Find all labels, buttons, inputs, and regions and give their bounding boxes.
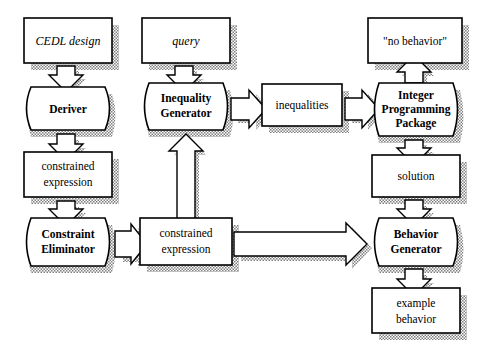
node-example-behavior-line2: behavior [396,313,436,325]
node-solution-label: solution [397,170,434,182]
node-behavior-generator[interactable]: Behavior Generator [375,218,458,266]
node-constraint-eliminator-line2: Eliminator [41,243,95,255]
node-cedl-design-label: CEDL design [36,34,101,48]
node-ip-package[interactable]: Integer Programming Package [375,83,458,136]
node-constrained-expression-2-line1: constrained [159,227,212,239]
node-example-behavior-line1: example [397,297,436,310]
node-inequality-generator-label-line2: Generator [160,107,211,119]
node-constrained-expression-1-line2: expression [43,176,92,189]
node-constrained-expression-2-line2: expression [161,243,210,256]
node-constrained-expression-1-line1: constrained [41,160,94,172]
flow-diagram-canvas: CEDL design query "no behavior" Deriver … [0,0,491,355]
node-inequalities[interactable]: inequalities [262,84,342,126]
node-ip-package-label-line3: Package [396,117,437,130]
node-no-behavior-label: "no behavior" [383,35,447,47]
node-constraint-eliminator[interactable]: Constraint Eliminator [27,218,110,266]
node-ip-package-label-line1: Integer [398,89,434,102]
node-inequality-generator[interactable]: Inequality Generator [145,83,228,130]
node-cedl-design[interactable]: CEDL design [24,18,112,63]
node-constrained-expression-2[interactable]: constrained expression [140,218,232,265]
node-behavior-generator-line2: Generator [390,243,441,255]
node-deriver-label: Deriver [49,103,87,115]
node-constraint-eliminator-line1: Constraint [41,228,94,240]
node-deriver[interactable]: Deriver [27,87,110,130]
node-inequality-generator-label-line1: Inequality [161,92,212,105]
flow-diagram: CEDL design query "no behavior" Deriver … [0,0,491,355]
node-example-behavior[interactable]: example behavior [372,288,460,333]
node-constrained-expression-1[interactable]: constrained expression [24,152,112,197]
node-ip-package-label-line2: Programming [382,103,451,116]
node-inequalities-label: inequalities [275,99,329,112]
node-solution[interactable]: solution [372,155,460,197]
node-query-label: query [172,34,200,48]
node-query[interactable]: query [142,18,230,63]
node-behavior-generator-line1: Behavior [394,228,439,240]
node-no-behavior[interactable]: "no behavior" [368,18,462,63]
